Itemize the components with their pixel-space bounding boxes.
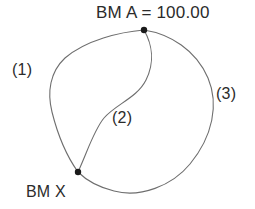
route-1-path (50, 30, 144, 172)
route-2-label: (2) (112, 110, 132, 126)
route-3-path (78, 30, 213, 193)
bm-x-label: BM X (26, 184, 66, 200)
route-2-path (78, 30, 152, 172)
bm-x-node-marker (75, 169, 81, 175)
leveling-loop-svg (0, 0, 255, 209)
diagram-canvas: BM A = 100.00 BM X (1) (2) (3) (0, 0, 255, 209)
route-1-label: (1) (12, 62, 32, 78)
route-3-label: (3) (216, 86, 236, 102)
bm-a-node-marker (141, 27, 147, 33)
bm-a-label: BM A = 100.00 (96, 4, 210, 21)
